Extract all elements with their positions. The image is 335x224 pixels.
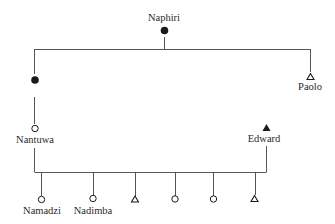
paolo-open-triangle-icon (307, 74, 314, 80)
edward-filled-triangle-icon (263, 124, 271, 131)
daughter-filled-circle-icon (31, 76, 39, 84)
naphiri-filled-circle-icon (161, 27, 169, 35)
child-3-open-triangle-icon (132, 196, 139, 202)
child-2-label: Nadimba (74, 205, 113, 217)
child-4-open-circle-icon (172, 196, 178, 202)
paolo-label: Paolo (298, 81, 322, 93)
symbols (31, 27, 314, 203)
edward-label: Edward (248, 133, 281, 145)
child-5-open-circle-icon (210, 196, 216, 202)
connector-lines (35, 37, 311, 196)
child-2-open-circle-icon (90, 195, 96, 201)
child-1-label: Namadzi (23, 205, 61, 217)
naphiri-label: Naphiri (148, 12, 180, 24)
nantuwa-label: Nantuwa (16, 134, 54, 146)
child-1-open-circle-icon (38, 196, 44, 202)
nantuwa-open-circle-icon (32, 125, 38, 131)
kinship-diagram (0, 0, 335, 224)
child-6-open-triangle-icon (251, 196, 258, 202)
